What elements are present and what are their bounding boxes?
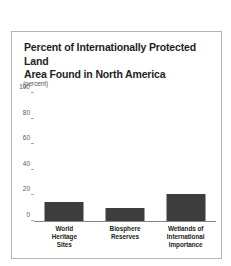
bar-group: Wetlands of International Importance — [155, 93, 216, 221]
y-axis-tick-label: 60 — [23, 134, 30, 141]
bar-group: Biosphere Reserves — [95, 93, 156, 221]
bar — [166, 194, 205, 221]
bar-group: World Heritage Sites — [34, 93, 95, 221]
x-axis-category-label: Wetlands of International Importance — [146, 225, 226, 250]
plot-area: 020406080100 World Heritage SitesBiosphe… — [34, 93, 216, 221]
y-axis-tick-label: 40 — [23, 159, 30, 166]
y-axis-tick-label: 20 — [23, 185, 30, 192]
chart-figure: Percent of Internationally Protected Lan… — [11, 31, 222, 259]
bar — [45, 202, 84, 221]
y-axis-tick-label: 100 — [19, 83, 30, 90]
y-axis-tick-label: 0 — [26, 211, 30, 218]
bar — [105, 208, 144, 221]
x-axis-line — [34, 221, 216, 222]
y-axis-tick-label: 80 — [23, 108, 30, 115]
chart-title: Percent of Internationally Protected Lan… — [24, 41, 214, 82]
